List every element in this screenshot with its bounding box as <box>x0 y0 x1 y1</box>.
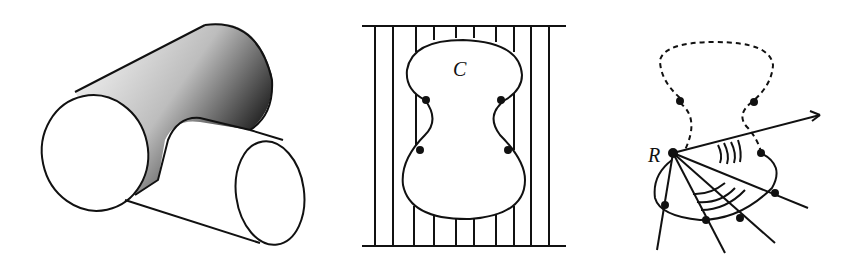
label-c: C <box>453 58 467 80</box>
intersecting-cylinders-panel <box>31 24 311 250</box>
label-r: R <box>647 144 660 166</box>
radial-sweep-panel <box>655 42 820 253</box>
figure-canvas: C R <box>0 0 852 270</box>
